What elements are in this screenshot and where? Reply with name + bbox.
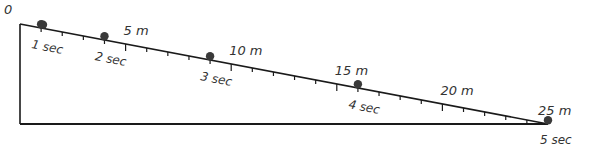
ball-t1 (37, 20, 45, 28)
distance-label: 10 m (229, 43, 262, 58)
time-label: 1 sec (31, 37, 65, 57)
incline-triangle (20, 24, 548, 124)
time-label: 3 sec (200, 69, 234, 89)
distance-labels: 5 m10 m15 m20 m25 m (124, 23, 572, 118)
distance-label: 15 m (335, 63, 368, 78)
time-label: 5 sec (540, 133, 572, 147)
ball-t2 (100, 32, 108, 40)
time-labels: 1 sec2 sec3 sec4 sec5 sec (31, 37, 573, 147)
origin-label: 0 (4, 2, 12, 17)
distance-label: 25 m (538, 103, 571, 118)
incline-hypotenuse (20, 24, 548, 124)
distance-label: 5 m (124, 23, 149, 38)
ball-positions (37, 20, 552, 124)
time-label: 4 sec (347, 97, 381, 117)
distance-label: 20 m (440, 83, 473, 98)
incline-diagram: 5 m10 m15 m20 m25 m 1 sec2 sec3 sec4 sec… (0, 0, 590, 158)
time-label: 2 sec (94, 49, 128, 69)
ball-t5 (544, 116, 552, 124)
ball-t3 (206, 52, 214, 60)
ball-t4 (354, 80, 362, 88)
